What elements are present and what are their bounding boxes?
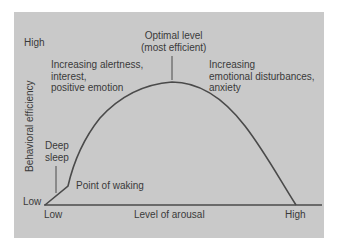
falling-line-2: emotional disturbances, xyxy=(209,71,315,83)
x-axis-title: Level of arousal xyxy=(134,209,205,221)
rising-line-3: positive emotion xyxy=(51,82,143,94)
deep-line-1: Deep xyxy=(45,140,69,152)
falling-line-1: Increasing xyxy=(209,59,315,71)
y-tick-high: High xyxy=(24,37,45,49)
y-tick-low: Low xyxy=(23,196,41,208)
point-of-waking-annotation: Point of waking xyxy=(76,180,144,192)
rising-line-1: Increasing alertness, xyxy=(51,59,143,71)
rising-line-2: interest, xyxy=(51,71,143,83)
falling-line-3: anxiety xyxy=(209,82,315,94)
deep-sleep-annotation: Deep sleep xyxy=(45,140,69,163)
optimal-line-1: Optimal level xyxy=(141,30,206,42)
x-tick-high: High xyxy=(285,209,306,221)
rising-annotation: Increasing alertness, interest, positive… xyxy=(51,59,143,94)
optimal-line-2: (most efficient) xyxy=(141,42,206,54)
y-axis-title: Behavioral efficiency xyxy=(24,80,35,172)
x-tick-low: Low xyxy=(44,209,62,221)
falling-annotation: Increasing emotional disturbances, anxie… xyxy=(209,59,315,94)
deep-line-2: sleep xyxy=(45,152,69,164)
optimal-annotation: Optimal level (most efficient) xyxy=(141,30,206,53)
